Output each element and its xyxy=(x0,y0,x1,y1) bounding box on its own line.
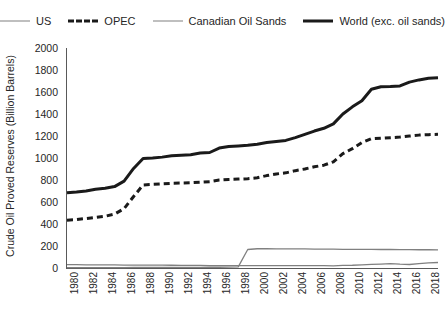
series-line xyxy=(67,134,438,220)
x-axis-tick-label: 1982 xyxy=(89,272,99,294)
y-axis-tick-label: 1000 xyxy=(35,153,58,163)
x-axis-tick-label: 2002 xyxy=(279,272,289,294)
y-axis-tick-label: 400 xyxy=(40,219,58,229)
y-axis-tick-label: 2000 xyxy=(35,43,58,53)
y-axis-tick-label: 600 xyxy=(40,197,58,207)
x-axis-tick-label: 1994 xyxy=(203,272,213,294)
plot-area xyxy=(66,48,438,269)
y-axis-tick-labels: 0200400600800100012001400160018002000 xyxy=(18,40,62,276)
legend-entry[interactable]: OPEC xyxy=(68,15,135,27)
x-axis-tick-label: 1980 xyxy=(70,272,80,294)
legend-swatch-icon xyxy=(0,15,30,27)
legend-label: US xyxy=(36,15,51,27)
legend-label: World (exc. oil sands) xyxy=(339,15,445,27)
x-axis-tick-label: 2016 xyxy=(412,272,422,294)
series-line xyxy=(67,263,438,266)
x-axis-tick-label: 2008 xyxy=(336,272,346,294)
y-axis-tick-label: 1600 xyxy=(35,87,58,97)
y-axis-title: Crude Oil Proved Reserves (Billion Barre… xyxy=(2,42,18,270)
legend-label: Canadian Oil Sands xyxy=(189,15,287,27)
x-axis-tick-label: 2000 xyxy=(260,272,270,294)
y-axis-tick-label: 200 xyxy=(40,241,58,251)
x-axis-tick-label: 1988 xyxy=(146,272,156,294)
x-axis-tick-label: 2010 xyxy=(355,272,365,294)
line-chart: USOPECCanadian Oil SandsWorld (exc. oil … xyxy=(0,0,445,316)
plot-lines xyxy=(67,48,438,268)
x-axis-tick-labels: 1980198219841986198819901992199419961998… xyxy=(66,272,437,316)
legend-entry[interactable]: World (exc. oil sands) xyxy=(303,15,445,27)
legend-swatch-icon xyxy=(68,15,98,27)
legend-entry[interactable]: Canadian Oil Sands xyxy=(153,15,287,27)
x-axis-tick-label: 2006 xyxy=(317,272,327,294)
y-axis-tick-label: 1400 xyxy=(35,109,58,119)
x-axis-tick-label: 2018 xyxy=(431,272,441,294)
chart-legend: USOPECCanadian Oil SandsWorld (exc. oil … xyxy=(0,8,445,34)
x-axis-tick-label: 1996 xyxy=(222,272,232,294)
x-axis-tick-label: 1998 xyxy=(241,272,251,294)
x-axis-tick-label: 2004 xyxy=(298,272,308,294)
x-axis-tick-label: 1984 xyxy=(108,272,118,294)
y-axis-tick-label: 1200 xyxy=(35,131,58,141)
y-axis-tick-label: 0 xyxy=(52,263,58,273)
y-axis-tick-label: 1800 xyxy=(35,65,58,75)
x-axis-tick-label: 2012 xyxy=(374,272,384,294)
x-axis-tick-label: 2014 xyxy=(393,272,403,294)
x-axis-tick-label: 1990 xyxy=(165,272,175,294)
x-axis-tick-label: 1986 xyxy=(127,272,137,294)
legend-label: OPEC xyxy=(104,15,135,27)
series-line xyxy=(67,78,438,193)
legend-entry[interactable]: US xyxy=(0,15,51,27)
y-axis-tick-label: 800 xyxy=(40,175,58,185)
legend-swatch-icon xyxy=(303,15,333,27)
y-axis-title-text: Crude Oil Proved Reserves (Billion Barre… xyxy=(4,55,16,257)
x-axis-tick-label: 1992 xyxy=(184,272,194,294)
legend-swatch-icon xyxy=(153,15,183,27)
